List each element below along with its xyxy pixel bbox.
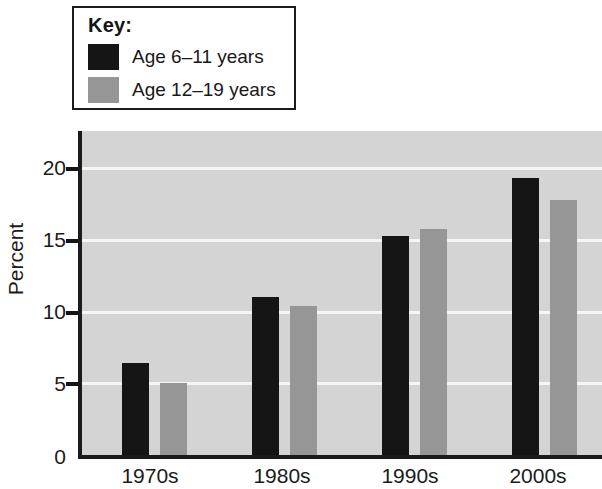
chart-legend: Key: Age 6–11 years Age 12–19 years xyxy=(72,6,296,110)
legend-entry-label: Age 6–11 years xyxy=(132,43,264,70)
y-tick-label: 0 xyxy=(22,445,66,469)
plot-inner xyxy=(82,131,602,455)
y-tick-label: 5 xyxy=(22,372,66,396)
legend-swatch-gray xyxy=(88,77,119,103)
legend-title: Key: xyxy=(88,14,132,37)
bar xyxy=(512,178,539,455)
y-tick-label: 15 xyxy=(22,228,66,252)
bar xyxy=(122,363,149,455)
y-tick-label: 20 xyxy=(22,156,66,180)
bar-chart-figure: Key: Age 6–11 years Age 12–19 years Perc… xyxy=(0,0,602,489)
plot-area xyxy=(78,131,602,459)
gridline xyxy=(82,167,602,170)
bar xyxy=(420,229,447,456)
bar xyxy=(550,200,577,455)
bar xyxy=(252,297,279,455)
x-tick-label: 2000s xyxy=(478,464,598,488)
bar xyxy=(382,236,409,455)
y-axis-labels: 0 5 10 15 20 xyxy=(22,131,70,459)
x-tick-label: 1990s xyxy=(350,464,470,488)
x-tick-label: 1980s xyxy=(222,464,342,488)
bar xyxy=(160,383,187,455)
x-tick-label: 1970s xyxy=(90,464,210,488)
y-tick-label: 10 xyxy=(22,300,66,324)
bar xyxy=(290,306,317,455)
x-axis-labels: 1970s 1980s 1990s 2000s xyxy=(78,464,602,489)
legend-entry-label: Age 12–19 years xyxy=(132,76,276,103)
legend-swatch-black xyxy=(88,44,119,70)
